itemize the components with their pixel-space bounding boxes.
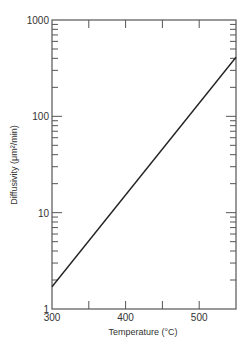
y-tick-label: 1: [43, 304, 49, 315]
y-axis-label: Diffusivity (μm²/min): [9, 125, 19, 205]
x-tick-label: 500: [191, 312, 208, 323]
y-tick-label: 10: [38, 208, 50, 219]
plot-frame: [52, 20, 236, 309]
tick-labels: 3004005001101001000: [27, 15, 208, 323]
x-axis-label: Temperature (°C): [108, 327, 177, 337]
x-tick-label: 400: [117, 312, 134, 323]
y-tick-label: 100: [32, 111, 49, 122]
series: [52, 57, 236, 286]
diffusivity-chart: 3004005001101001000 Temperature (°C) Dif…: [0, 0, 249, 357]
plot-border: [52, 20, 236, 309]
ticks: [52, 20, 236, 309]
y-tick-label: 1000: [27, 15, 50, 26]
series-line-diffusivity: [52, 57, 236, 286]
